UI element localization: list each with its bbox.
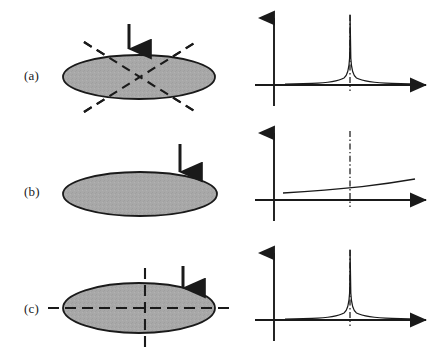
response-curve-a [285,15,418,84]
response-curve-c [285,250,418,319]
row-label-a: (a) [24,68,39,84]
row-label-b: (b) [24,184,40,200]
specimen-panel-b [40,132,240,232]
specimen-panel-a [40,10,240,125]
plot-panel-b [250,125,435,235]
plot-panel-a [250,10,435,120]
specimen-ellipse-b [63,172,217,216]
row-label-c: (c) [24,301,39,317]
plot-panel-c [250,245,435,357]
response-curve-b [283,179,415,193]
figure-canvas: (a) [0,0,439,361]
specimen-panel-c [40,258,240,358]
